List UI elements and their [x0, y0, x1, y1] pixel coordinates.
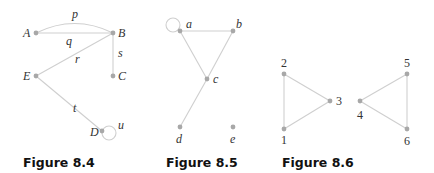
label-1: 1 — [281, 133, 287, 147]
label-r: r — [75, 52, 80, 66]
node-D — [100, 129, 105, 134]
edge-a-c — [180, 31, 207, 79]
edge-4-6 — [360, 101, 407, 129]
node-2 — [282, 72, 287, 77]
label-2: 2 — [281, 56, 287, 70]
label-E: E — [22, 69, 31, 83]
caption-figure-8-4: Figure 8.4 — [23, 155, 95, 170]
label-C: C — [118, 69, 127, 83]
edge-p — [36, 24, 113, 34]
edge-b-c — [207, 31, 233, 79]
node-3 — [328, 99, 333, 104]
label-3: 3 — [336, 94, 342, 108]
label-A: A — [22, 26, 31, 40]
edge-2-3 — [284, 74, 330, 101]
node-c — [205, 77, 210, 82]
node-4 — [358, 99, 363, 104]
node-d — [178, 125, 183, 130]
label-t: t — [73, 101, 77, 115]
node-b — [231, 29, 236, 34]
label-5: 5 — [404, 56, 410, 70]
caption-figure-8-5: Figure 8.5 — [166, 155, 238, 170]
figure-8-5: a b c d e Figure 8.5 — [166, 17, 242, 170]
edge-1-3 — [284, 101, 330, 129]
figure-8-6: 1 2 3 4 5 6 Figure 8.6 — [281, 56, 410, 170]
label-q: q — [66, 34, 72, 48]
edge-t — [36, 76, 102, 131]
label-4: 4 — [357, 108, 363, 122]
label-6: 6 — [404, 134, 410, 148]
label-e: e — [230, 132, 236, 146]
label-D: D — [89, 125, 99, 139]
label-b: b — [236, 17, 242, 31]
label-c: c — [213, 72, 219, 86]
label-s: s — [118, 46, 123, 60]
node-A — [34, 31, 39, 36]
node-1 — [282, 127, 287, 132]
figure-8-4: A B C E D p q r s t u Figure 8.4 — [22, 7, 127, 170]
graph-figures: A B C E D p q r s t u Figure 8.4 a b c d… — [0, 0, 434, 173]
edge-4-5 — [360, 74, 407, 101]
label-B: B — [118, 26, 126, 40]
caption-figure-8-6: Figure 8.6 — [282, 155, 354, 170]
node-5 — [405, 72, 410, 77]
label-u: u — [118, 118, 124, 132]
edge-u-loop — [102, 126, 116, 140]
node-e — [231, 125, 236, 130]
node-B — [111, 31, 116, 36]
label-a: a — [186, 17, 192, 31]
label-p: p — [71, 7, 78, 21]
edge-c-d — [180, 79, 207, 127]
node-C — [111, 74, 116, 79]
node-6 — [405, 127, 410, 132]
node-E — [34, 74, 39, 79]
node-a — [178, 29, 183, 34]
label-d: d — [176, 132, 183, 146]
